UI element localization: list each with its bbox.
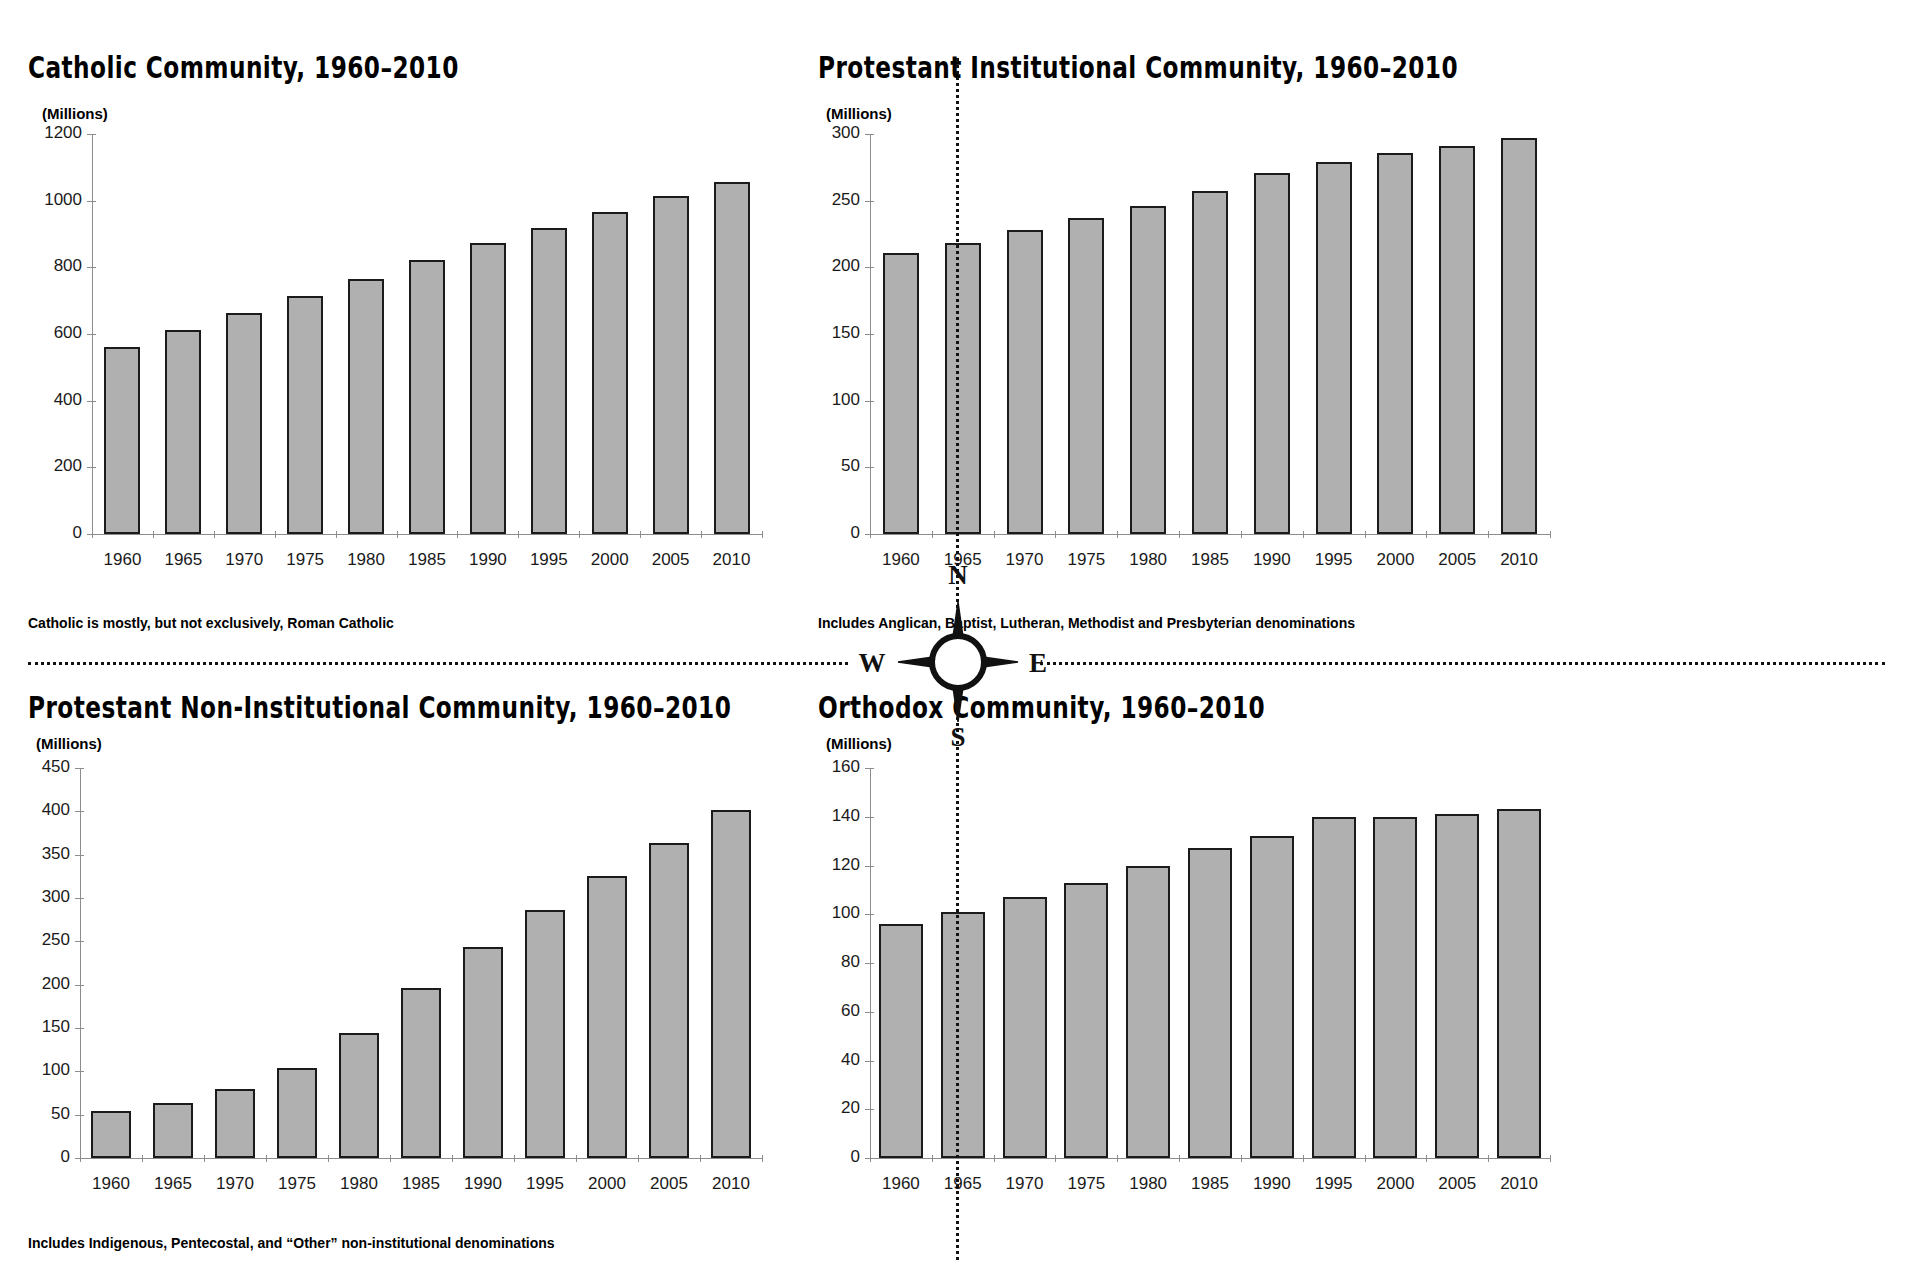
divider-horizontal-left — [28, 662, 848, 665]
x-axis-tick-label: 2010 — [691, 1174, 771, 1194]
y-axis-tick-label: 0 — [816, 523, 860, 543]
x-axis-tick — [994, 531, 995, 538]
x-axis-tick — [457, 531, 458, 538]
x-axis-tick — [1303, 531, 1304, 538]
bar — [649, 843, 689, 1158]
x-axis-tick — [1550, 1155, 1551, 1162]
y-axis-tick-label: 200 — [26, 974, 70, 994]
panel-protestant-institutional-community: Protestant Institutional Community, 1960… — [818, 50, 1558, 650]
compass-label-south: S — [936, 722, 980, 753]
y-axis-tick-label: 800 — [30, 256, 82, 276]
bar — [1316, 162, 1352, 534]
bar — [1435, 814, 1479, 1158]
x-axis-tick — [336, 531, 337, 538]
y-axis-tick-label: 20 — [816, 1098, 860, 1118]
y-axis-tick-label: 0 — [26, 1147, 70, 1167]
bar — [711, 810, 751, 1158]
y-axis-tick — [865, 267, 874, 268]
y-axis-units-protestant-institutional: (Millions) — [826, 105, 892, 122]
y-axis-tick-label: 140 — [816, 806, 860, 826]
x-axis-tick-label: 2010 — [1479, 550, 1559, 570]
x-axis-tick — [1117, 1155, 1118, 1162]
y-axis-tick — [865, 914, 874, 915]
y-axis-tick — [865, 334, 874, 335]
x-axis-tick — [514, 1155, 515, 1162]
x-axis-tick — [701, 531, 702, 538]
bar — [1254, 173, 1290, 534]
bar — [714, 182, 750, 534]
x-axis-tick — [452, 1155, 453, 1162]
y-axis-tick — [87, 401, 96, 402]
bar — [226, 313, 262, 534]
bar — [1373, 817, 1417, 1158]
bar — [525, 910, 565, 1158]
x-axis-tick — [932, 531, 933, 538]
y-axis-tick — [865, 467, 874, 468]
x-axis-tick — [1426, 1155, 1427, 1162]
x-axis-tick — [1179, 531, 1180, 538]
divider-horizontal-right — [1040, 662, 1885, 665]
y-axis-tick — [865, 1061, 874, 1062]
bar — [1439, 146, 1475, 534]
y-axis-tick — [75, 941, 84, 942]
y-axis-tick — [75, 768, 84, 769]
bar — [91, 1111, 131, 1158]
y-axis-tick-label: 120 — [816, 855, 860, 875]
x-axis-tick — [397, 531, 398, 538]
x-axis-tick — [266, 1155, 267, 1162]
x-axis-tick — [1365, 531, 1366, 538]
footnote-catholic: Catholic is mostly, but not exclusively,… — [28, 615, 394, 631]
x-axis-tick — [932, 1155, 933, 1162]
panel-catholic-community: Catholic Community, 1960–2010 (Millions)… — [28, 50, 768, 650]
bar — [1188, 848, 1232, 1158]
x-axis-tick — [92, 531, 93, 538]
y-axis-tick-label: 0 — [30, 523, 82, 543]
y-axis-tick — [87, 134, 96, 135]
bar — [401, 988, 441, 1158]
x-axis-tick — [1055, 1155, 1056, 1162]
y-axis-tick — [87, 334, 96, 335]
bar — [592, 212, 628, 534]
bar — [1007, 230, 1043, 534]
bar — [945, 243, 981, 534]
bar — [1250, 836, 1294, 1158]
x-axis-tick — [870, 1155, 871, 1162]
y-axis-tick-label: 150 — [26, 1017, 70, 1037]
x-axis-tick — [204, 1155, 205, 1162]
bar — [348, 279, 384, 534]
y-axis-tick — [865, 1109, 874, 1110]
bar — [165, 330, 201, 534]
y-axis-units-orthodox: (Millions) — [826, 735, 892, 752]
x-axis-tick — [1117, 531, 1118, 538]
bar — [1377, 153, 1413, 534]
bar — [277, 1068, 317, 1158]
x-axis-tick — [275, 531, 276, 538]
bar — [104, 347, 140, 534]
bar — [339, 1033, 379, 1158]
bar — [463, 947, 503, 1158]
x-axis-tick — [1055, 531, 1056, 538]
y-axis-tick-label: 350 — [26, 844, 70, 864]
y-axis-tick — [865, 768, 874, 769]
y-axis-tick-label: 160 — [816, 757, 860, 777]
compass-label-west: W — [850, 648, 894, 679]
plot-area-orthodox: 0204060801001201401601960196519701975198… — [870, 768, 1550, 1158]
y-axis-tick — [865, 817, 874, 818]
bar — [1130, 206, 1166, 534]
compass-rose — [896, 600, 1020, 724]
y-axis-tick — [75, 1115, 84, 1116]
y-axis-tick — [865, 201, 874, 202]
plot-area-protestant-institutional: 0501001502002503001960196519701975198019… — [870, 134, 1550, 534]
x-axis-tick — [576, 1155, 577, 1162]
chart-title-orthodox: Orthodox Community, 1960–2010 — [818, 690, 1265, 725]
bar — [1497, 809, 1541, 1158]
x-axis-tick — [1550, 531, 1551, 538]
x-axis-tick — [1365, 1155, 1366, 1162]
bar — [1312, 817, 1356, 1158]
x-axis-tick — [640, 531, 641, 538]
bar — [879, 924, 923, 1158]
y-axis-tick-label: 100 — [26, 1060, 70, 1080]
bar — [1126, 866, 1170, 1159]
y-axis-tick-label: 60 — [816, 1001, 860, 1021]
y-axis-tick — [75, 1071, 84, 1072]
